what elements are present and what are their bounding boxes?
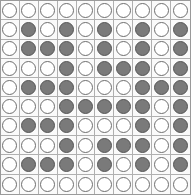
board-cell-r10-c8[interactable] xyxy=(133,175,152,194)
board-cell-r7-c7[interactable] xyxy=(114,117,133,136)
board-cell-r9-c6[interactable] xyxy=(95,155,114,174)
board-cell-r6-c6[interactable] xyxy=(95,97,114,116)
board-cell-r10-c9[interactable] xyxy=(152,175,171,194)
board-cell-r1-c2[interactable] xyxy=(20,1,39,20)
board-cell-r2-c8[interactable] xyxy=(133,20,152,39)
board-cell-r10-c7[interactable] xyxy=(114,175,133,194)
board-cell-r7-c2[interactable] xyxy=(20,117,39,136)
board-cell-r7-c10[interactable] xyxy=(171,117,190,136)
board-cell-r4-c9[interactable] xyxy=(152,59,171,78)
board-cell-r6-c10[interactable] xyxy=(171,97,190,116)
board-cell-r7-c4[interactable] xyxy=(58,117,77,136)
board-cell-r9-c9[interactable] xyxy=(152,155,171,174)
board-cell-r9-c5[interactable] xyxy=(77,155,96,174)
board-cell-r10-c3[interactable] xyxy=(39,175,58,194)
board-cell-r5-c6[interactable] xyxy=(95,78,114,97)
board-cell-r4-c4[interactable] xyxy=(58,59,77,78)
board-cell-r1-c8[interactable] xyxy=(133,1,152,20)
board-cell-r10-c6[interactable] xyxy=(95,175,114,194)
board-cell-r2-c7[interactable] xyxy=(114,20,133,39)
board-cell-r7-c6[interactable] xyxy=(95,117,114,136)
board-cell-r6-c9[interactable] xyxy=(152,97,171,116)
board-cell-r7-c5[interactable] xyxy=(77,117,96,136)
board-cell-r3-c7[interactable] xyxy=(114,40,133,59)
board-cell-r9-c2[interactable] xyxy=(20,155,39,174)
board-cell-r1-c3[interactable] xyxy=(39,1,58,20)
board-cell-r1-c6[interactable] xyxy=(95,1,114,20)
board-cell-r10-c4[interactable] xyxy=(58,175,77,194)
board-cell-r3-c1[interactable] xyxy=(1,40,20,59)
board-cell-r8-c10[interactable] xyxy=(171,136,190,155)
board-cell-r3-c9[interactable] xyxy=(152,40,171,59)
board-cell-r10-c10[interactable] xyxy=(171,175,190,194)
board-cell-r4-c1[interactable] xyxy=(1,59,20,78)
board-cell-r8-c7[interactable] xyxy=(114,136,133,155)
board-cell-r4-c7[interactable] xyxy=(114,59,133,78)
board-cell-r4-c3[interactable] xyxy=(39,59,58,78)
board-cell-r7-c3[interactable] xyxy=(39,117,58,136)
board-cell-r4-c8[interactable] xyxy=(133,59,152,78)
board-cell-r3-c2[interactable] xyxy=(20,40,39,59)
board-cell-r8-c6[interactable] xyxy=(95,136,114,155)
board-cell-r4-c5[interactable] xyxy=(77,59,96,78)
board-cell-r5-c7[interactable] xyxy=(114,78,133,97)
board-cell-r3-c3[interactable] xyxy=(39,40,58,59)
board-cell-r2-c10[interactable] xyxy=(171,20,190,39)
board-cell-r3-c8[interactable] xyxy=(133,40,152,59)
board-cell-r9-c3[interactable] xyxy=(39,155,58,174)
board-cell-r6-c7[interactable] xyxy=(114,97,133,116)
board-cell-r8-c5[interactable] xyxy=(77,136,96,155)
board-cell-r3-c6[interactable] xyxy=(95,40,114,59)
board-cell-r5-c8[interactable] xyxy=(133,78,152,97)
board-cell-r9-c8[interactable] xyxy=(133,155,152,174)
board-cell-r5-c4[interactable] xyxy=(58,78,77,97)
board-cell-r7-c8[interactable] xyxy=(133,117,152,136)
board-cell-r4-c6[interactable] xyxy=(95,59,114,78)
board-cell-r8-c3[interactable] xyxy=(39,136,58,155)
board-cell-r1-c1[interactable] xyxy=(1,1,20,20)
board-cell-r10-c2[interactable] xyxy=(20,175,39,194)
board-cell-r6-c5[interactable] xyxy=(77,97,96,116)
board-cell-r1-c7[interactable] xyxy=(114,1,133,20)
board-cell-r6-c3[interactable] xyxy=(39,97,58,116)
board-cell-r9-c1[interactable] xyxy=(1,155,20,174)
board-cell-r2-c2[interactable] xyxy=(20,20,39,39)
board-cell-r3-c4[interactable] xyxy=(58,40,77,59)
board-cell-r7-c1[interactable] xyxy=(1,117,20,136)
board-cell-r2-c6[interactable] xyxy=(95,20,114,39)
board-cell-r5-c3[interactable] xyxy=(39,78,58,97)
board-cell-r10-c5[interactable] xyxy=(77,175,96,194)
board-cell-r3-c5[interactable] xyxy=(77,40,96,59)
board-cell-r7-c9[interactable] xyxy=(152,117,171,136)
board-cell-r5-c2[interactable] xyxy=(20,78,39,97)
board-cell-r2-c3[interactable] xyxy=(39,20,58,39)
board-cell-r2-c9[interactable] xyxy=(152,20,171,39)
board-cell-r8-c9[interactable] xyxy=(152,136,171,155)
board-cell-r5-c9[interactable] xyxy=(152,78,171,97)
board-cell-r5-c5[interactable] xyxy=(77,78,96,97)
board-cell-r4-c10[interactable] xyxy=(171,59,190,78)
board-cell-r9-c10[interactable] xyxy=(171,155,190,174)
board-cell-r3-c10[interactable] xyxy=(171,40,190,59)
board-cell-r6-c1[interactable] xyxy=(1,97,20,116)
board-cell-r2-c4[interactable] xyxy=(58,20,77,39)
board-cell-r4-c2[interactable] xyxy=(20,59,39,78)
board-cell-r8-c8[interactable] xyxy=(133,136,152,155)
board-cell-r8-c1[interactable] xyxy=(1,136,20,155)
board-cell-r8-c2[interactable] xyxy=(20,136,39,155)
board-cell-r9-c7[interactable] xyxy=(114,155,133,174)
board-cell-r5-c10[interactable] xyxy=(171,78,190,97)
board-cell-r1-c9[interactable] xyxy=(152,1,171,20)
board-cell-r2-c5[interactable] xyxy=(77,20,96,39)
board-cell-r1-c4[interactable] xyxy=(58,1,77,20)
board-cell-r6-c8[interactable] xyxy=(133,97,152,116)
board-cell-r6-c4[interactable] xyxy=(58,97,77,116)
board-cell-r2-c1[interactable] xyxy=(1,20,20,39)
board-cell-r1-c5[interactable] xyxy=(77,1,96,20)
board-cell-r10-c1[interactable] xyxy=(1,175,20,194)
board-cell-r8-c4[interactable] xyxy=(58,136,77,155)
board-cell-r9-c4[interactable] xyxy=(58,155,77,174)
board-cell-r5-c1[interactable] xyxy=(1,78,20,97)
board-cell-r1-c10[interactable] xyxy=(171,1,190,20)
board-cell-r6-c2[interactable] xyxy=(20,97,39,116)
